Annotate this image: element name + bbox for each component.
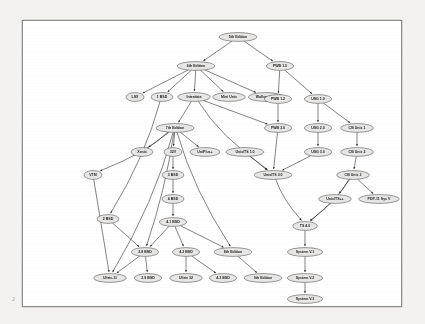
graph-node[interactable]: 2.9 BSD: [134, 274, 161, 283]
node-label: Unix/TS 3.0: [263, 173, 282, 177]
edge: [274, 132, 278, 169]
edge: [175, 226, 184, 246]
edge: [282, 156, 310, 171]
graph-node[interactable]: PWB 1.0: [266, 62, 293, 71]
nodes-layer: 5th Edition6th EditionPWB 1.0LSX1 BSDInt…: [84, 33, 399, 304]
graph-node[interactable]: System V.1: [287, 248, 322, 257]
graph-node[interactable]: TS 4.0: [293, 222, 318, 231]
node-label: LSX: [132, 95, 140, 99]
graph-node[interactable]: PDP-11 Sys V: [359, 195, 400, 204]
node-label: Ultrix-11: [103, 276, 117, 280]
graph-node[interactable]: CB Unix 3: [337, 171, 370, 180]
graph-node[interactable]: Interdata: [178, 93, 211, 102]
edge: [179, 101, 192, 122]
node-label: 7th Edition: [166, 126, 184, 130]
edge: [354, 156, 356, 169]
edge: [244, 41, 273, 61]
edge: [285, 70, 312, 94]
node-label: 1 BSD: [157, 95, 168, 99]
graph-node[interactable]: Unix/TS 1.0: [226, 148, 264, 157]
graph-node[interactable]: 7th Edition: [156, 124, 194, 133]
graph-node[interactable]: Ultrix 32: [170, 274, 203, 283]
edge: [192, 256, 216, 273]
edge: [358, 179, 374, 193]
graph-node[interactable]: USG 3.0: [304, 148, 331, 157]
node-label: 4 BSD: [168, 197, 179, 201]
node-label: CB Unix 1: [349, 126, 366, 130]
node-label: CB Unix 2: [349, 150, 366, 154]
graph-node[interactable]: 4.3 BSD: [209, 274, 236, 283]
node-label: PWB 1.0: [273, 64, 287, 68]
edge: [203, 41, 232, 61]
graph-node[interactable]: Xenix: [131, 148, 153, 157]
graph-node[interactable]: Unix/TS++: [319, 195, 352, 204]
node-label: VTM: [89, 173, 97, 177]
edge: [168, 70, 192, 92]
graph-node[interactable]: 2.8 BSD: [131, 248, 158, 257]
node-label: System V.3: [296, 297, 315, 301]
node-label: 5th Edition: [229, 35, 247, 39]
edge: [194, 70, 195, 91]
edge: [250, 156, 266, 170]
edge: [323, 103, 350, 123]
page-number: 2: [12, 296, 15, 302]
graph-node[interactable]: Mini Unix: [213, 93, 246, 102]
node-label: PDP-11 Sys V: [368, 197, 392, 201]
edge: [201, 70, 224, 91]
edge: [150, 226, 169, 246]
graph-node[interactable]: 4.2 BSD: [172, 248, 199, 257]
node-label: 4.2 BSD: [179, 250, 193, 254]
node-label: CB Unix 3: [345, 173, 362, 177]
node-label: Mini Unix: [221, 95, 237, 99]
node-label: PWB 1.2: [271, 97, 285, 101]
node-label: 2 BSD: [103, 217, 114, 221]
edge: [311, 203, 331, 221]
edge: [180, 226, 223, 248]
graph-node[interactable]: 32V: [164, 148, 182, 157]
paper-sheet: 5th Edition6th EditionPWB 1.0LSX1 BSDInt…: [22, 20, 402, 307]
graph-node[interactable]: 2 BSD: [97, 215, 119, 224]
graph-node[interactable]: PWB 2.0: [264, 124, 291, 133]
graph-node[interactable]: USG 1.0: [304, 95, 331, 104]
node-label: Interdata: [187, 95, 202, 99]
graph-node[interactable]: Unix/TS 3.0: [254, 171, 292, 180]
graph-node[interactable]: 6th Edition: [177, 62, 215, 71]
graph-node[interactable]: UniPlus+: [190, 148, 220, 157]
graph-node[interactable]: PWB 1.2: [264, 95, 291, 104]
graph-node[interactable]: Ultrix-11: [94, 274, 127, 283]
node-label: USG 2.0: [311, 126, 325, 130]
node-label: TS 4.0: [300, 224, 310, 228]
node-label: 8th Edition: [224, 250, 242, 254]
graph-node[interactable]: USG 2.0: [304, 124, 331, 133]
node-label: Xenix: [137, 150, 146, 154]
graph-node[interactable]: VTM: [84, 171, 102, 180]
edge: [278, 70, 279, 93]
node-label: UniPlus+: [197, 150, 212, 154]
node-label: 3 BSD: [168, 173, 179, 177]
graph-node[interactable]: System V.3: [287, 295, 322, 304]
graph-node[interactable]: System V.2: [287, 274, 322, 283]
graph-node[interactable]: 1 BSD: [151, 93, 173, 102]
graph-node[interactable]: CB Unix 2: [341, 148, 374, 157]
graph-node[interactable]: CB Unix 1: [341, 124, 374, 133]
node-label: 4.1 BSD: [166, 220, 180, 224]
node-label: 2.8 BSD: [138, 250, 152, 254]
node-label: 2.9 BSD: [141, 276, 155, 280]
graph-node[interactable]: 3 BSD: [162, 171, 184, 180]
graph-node[interactable]: 5th Edition: [219, 33, 257, 42]
graph-node[interactable]: 9th Edition: [244, 274, 282, 283]
edge: [146, 256, 148, 272]
edge: [204, 101, 268, 125]
node-label: System V.2: [296, 276, 315, 280]
edge: [111, 101, 161, 213]
node-label: Unix/TS++: [326, 197, 343, 201]
node-label: Ultrix 32: [179, 276, 193, 280]
graph-node[interactable]: LSX: [126, 93, 144, 102]
graph-node[interactable]: 8th Edition: [214, 248, 252, 257]
graph-node[interactable]: 4 BSD: [162, 195, 184, 204]
graph-node[interactable]: 4.1 BSD: [159, 218, 186, 227]
node-label: Unix/TS 1.0: [235, 150, 254, 154]
node-label: 32V: [170, 150, 177, 154]
node-label: PWB 2.0: [271, 126, 285, 130]
scanned-page: 5th Edition6th EditionPWB 1.0LSX1 BSDInt…: [0, 0, 425, 324]
